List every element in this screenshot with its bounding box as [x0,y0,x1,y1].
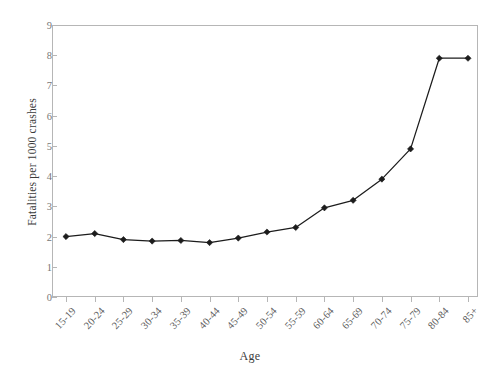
x-tick-mark [238,297,239,302]
x-tick-mark [181,297,182,302]
x-tick-mark [296,297,297,302]
x-tick-label: 25-29 [110,305,135,331]
y-tick-mark [52,297,57,298]
x-tick-label: 65-69 [340,305,365,331]
x-tick-mark [439,297,440,302]
x-tick-label: 50-54 [254,305,279,331]
x-tick-label: 40-44 [196,305,221,331]
x-tick-label: 45-49 [225,305,250,331]
plot-area-frame [52,25,478,297]
line-chart: 0123456789 Fatalities per 1000 crashes A… [0,0,500,373]
y-tick-mark [52,146,57,147]
y-axis-title: Fatalities per 1000 crashes [22,26,42,298]
x-tick-label: 15-19 [53,305,78,331]
y-tick-mark [52,267,57,268]
x-tick-label: 80-84 [426,305,451,331]
x-tick-label: 85+ [460,305,480,325]
y-tick-mark [52,116,57,117]
x-tick-label: 55-59 [282,305,307,331]
x-tick-mark [411,297,412,302]
y-tick-mark [52,176,57,177]
x-tick-mark [267,297,268,302]
x-tick-label: 35-39 [167,305,192,331]
x-tick-mark [152,297,153,302]
x-tick-mark [95,297,96,302]
x-tick-label: 60-64 [311,305,336,331]
x-tick-mark [210,297,211,302]
y-tick-mark [52,206,57,207]
x-tick-mark [468,297,469,302]
x-axis-title: Age [0,349,500,364]
x-tick-label: 30-34 [139,305,164,331]
y-tick-mark [52,25,57,26]
x-tick-mark [353,297,354,302]
x-tick-label: 75-79 [397,305,422,331]
x-tick-mark [123,297,124,302]
x-tick-label: 70-74 [368,305,393,331]
x-tick-label: 20-24 [81,305,106,331]
y-tick-mark [52,55,57,56]
x-tick-mark [324,297,325,302]
x-tick-mark [382,297,383,302]
y-tick-mark [52,85,57,86]
x-tick-mark [66,297,67,302]
y-tick-mark [52,237,57,238]
